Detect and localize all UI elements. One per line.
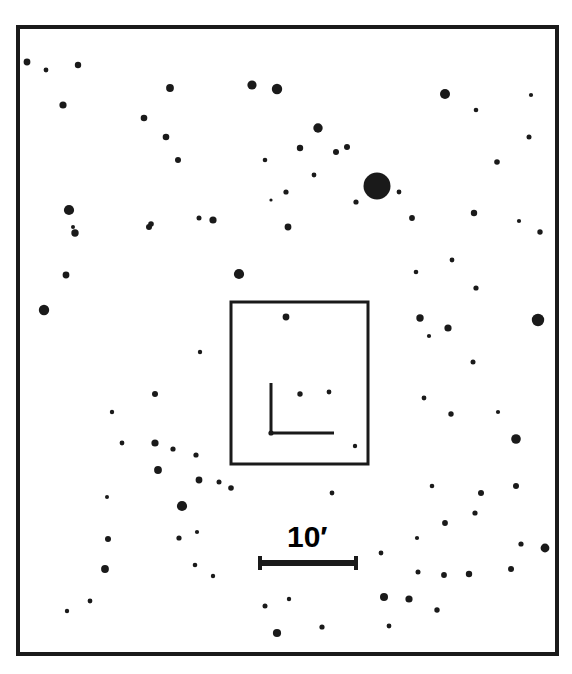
star-marker: [364, 173, 391, 200]
star-marker: [415, 536, 419, 540]
star-marker: [196, 477, 203, 484]
star-marker: [444, 324, 451, 331]
star-marker: [209, 216, 216, 223]
star-marker: [427, 334, 431, 338]
star-marker: [272, 84, 282, 94]
star-marker: [71, 225, 75, 229]
star-marker: [141, 115, 148, 122]
star-marker: [105, 536, 111, 542]
star-marker: [537, 229, 542, 234]
star-marker: [263, 158, 268, 163]
star-marker: [494, 159, 500, 165]
star-marker: [472, 510, 477, 515]
star-marker: [434, 607, 439, 612]
star-marker: [527, 135, 532, 140]
star-marker: [176, 535, 181, 540]
star-marker: [101, 565, 109, 573]
star-marker: [379, 551, 384, 556]
sky-field-plot: [0, 0, 572, 674]
star-marker: [529, 93, 533, 97]
star-marker: [353, 199, 358, 204]
star-marker: [327, 390, 332, 395]
star-marker: [496, 410, 500, 414]
star-marker: [198, 350, 202, 354]
star-marker: [414, 270, 419, 275]
star-marker: [430, 484, 435, 489]
star-marker: [75, 62, 81, 68]
star-marker: [442, 520, 448, 526]
star-marker: [422, 396, 427, 401]
star-marker: [234, 269, 244, 279]
star-marker: [474, 108, 479, 113]
star-marker: [518, 541, 523, 546]
star-marker: [193, 563, 198, 568]
star-marker: [541, 544, 550, 553]
star-marker: [532, 314, 544, 326]
star-marker: [283, 189, 288, 194]
star-marker: [120, 441, 125, 446]
star-marker: [44, 68, 49, 73]
star-marker: [471, 210, 477, 216]
star-marker: [151, 439, 158, 446]
star-marker: [319, 624, 324, 629]
star-marker: [387, 624, 392, 629]
star-marker: [195, 530, 199, 534]
star-marker: [517, 219, 521, 223]
star-marker: [380, 593, 388, 601]
chart-background: [0, 0, 572, 674]
star-marker: [333, 149, 339, 155]
star-marker: [466, 571, 472, 577]
star-marker: [513, 483, 519, 489]
star-marker: [105, 495, 109, 499]
star-marker: [471, 360, 476, 365]
finder-chart: 10′: [0, 0, 572, 674]
star-marker: [344, 144, 350, 150]
star-marker: [88, 599, 93, 604]
star-marker: [416, 570, 421, 575]
star-marker: [59, 101, 66, 108]
star-marker: [247, 80, 256, 89]
star-marker: [39, 305, 49, 315]
star-marker: [287, 597, 291, 601]
star-marker: [440, 89, 450, 99]
star-marker: [170, 446, 175, 451]
star-marker: [285, 224, 292, 231]
star-marker: [473, 285, 478, 290]
star-marker: [283, 314, 290, 321]
star-marker: [409, 215, 415, 221]
star-marker: [273, 629, 281, 637]
star-marker: [511, 434, 521, 444]
star-marker: [297, 145, 303, 151]
star-marker: [263, 604, 268, 609]
star-marker: [71, 229, 78, 236]
star-marker: [228, 485, 234, 491]
target-object-dot: [268, 430, 273, 435]
star-marker: [330, 491, 335, 496]
star-marker: [152, 391, 158, 397]
star-marker: [24, 59, 31, 66]
star-marker: [297, 391, 302, 396]
star-marker: [448, 411, 453, 416]
scale-bar-label: 10′: [287, 522, 328, 552]
star-marker: [450, 258, 455, 263]
star-marker: [110, 410, 114, 414]
star-marker: [217, 480, 222, 485]
star-marker: [177, 501, 187, 511]
star-marker: [312, 173, 317, 178]
star-marker: [313, 123, 322, 132]
star-marker: [146, 224, 152, 230]
star-marker: [166, 84, 174, 92]
star-marker: [175, 157, 181, 163]
star-marker: [163, 134, 170, 141]
star-marker: [416, 314, 423, 321]
star-marker: [478, 490, 484, 496]
star-marker: [64, 205, 74, 215]
star-marker: [269, 198, 272, 201]
star-marker: [397, 190, 402, 195]
star-marker: [197, 216, 202, 221]
star-marker: [405, 595, 412, 602]
star-marker: [63, 272, 70, 279]
star-marker: [353, 444, 357, 448]
star-marker: [441, 572, 447, 578]
star-marker: [508, 566, 514, 572]
